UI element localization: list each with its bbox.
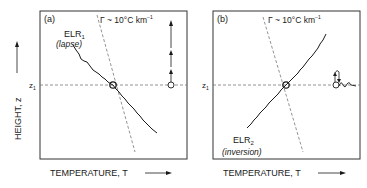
panel-a-tag: (a) bbox=[44, 14, 55, 24]
arrow-right-icon bbox=[166, 171, 172, 175]
arrow-up-icon bbox=[169, 50, 173, 55]
panel-b-curve-desc: (inversion) bbox=[222, 147, 262, 157]
panel-a-curve-desc: (lapse) bbox=[56, 39, 82, 49]
arrow-up-icon bbox=[169, 20, 173, 26]
panel-b-curve-label: ELR2 bbox=[233, 135, 255, 146]
arrow-right-icon bbox=[340, 171, 346, 175]
panel-b-oscillating-parcel bbox=[333, 71, 356, 88]
panel-a-elr-curve bbox=[73, 45, 157, 133]
panel-b-tag: (b) bbox=[217, 14, 228, 24]
y-axis-label: HEIGHT, z bbox=[13, 41, 23, 140]
panel-a-rising-parcel bbox=[168, 20, 174, 88]
y-axis-label-text: HEIGHT, z bbox=[13, 97, 23, 140]
panel-b-z1-label: z1 bbox=[202, 81, 209, 91]
arrow-up-icon bbox=[169, 69, 173, 74]
panel-b-lapse-label: Γ ~ 10°C km−1 bbox=[268, 14, 321, 25]
panel-b-elr-curve bbox=[247, 34, 326, 128]
panel-a-z1-label: z1 bbox=[29, 81, 36, 91]
y-axis-arrow-icon bbox=[15, 41, 19, 47]
panel-a-lapse-label: Γ ~ 10°C km−1 bbox=[100, 14, 153, 25]
panel-b: (b) z1 Γ ~ 10°C km−1 ELR2 (inversion) TE… bbox=[202, 11, 360, 178]
parcel-icon bbox=[333, 82, 339, 88]
panel-a: (a) z1 Γ ~ 10°C km−1 ELR1 (lapse) TEMPER… bbox=[29, 11, 187, 178]
stability-diagram: HEIGHT, z (a) z1 Γ ~ 10°C km−1 ELR1 (lap… bbox=[0, 0, 367, 188]
parcel-icon bbox=[168, 82, 174, 88]
panel-b-x-axis-label: TEMPERATURE, T bbox=[223, 168, 301, 178]
panel-a-x-axis-label: TEMPERATURE, T bbox=[50, 168, 128, 178]
